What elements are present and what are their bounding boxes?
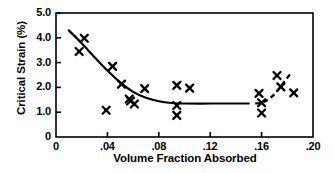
x-axis-tick-label: .16 [247,140,277,152]
y-axis-tick-label: 3.0 [25,56,51,68]
x-axis-tick-label: 0 [41,140,71,152]
y-axis-tick-label: 4.0 [25,31,51,43]
chart-figure: 01.02.03.04.05.0 0.04.08.12.16.20 Volume… [0,0,334,173]
x-axis-tick-label: .04 [92,140,122,152]
x-axis-tick-label: .08 [144,140,174,152]
x-axis-title: Volume Fraction Absorbed [56,152,314,164]
y-axis-title: Critical Strain (%) [15,6,27,130]
y-axis-tick-label: 1.0 [25,105,51,117]
plot-background [56,13,313,137]
x-axis-tick-label: .12 [195,140,225,152]
y-axis-tick-label: 2.0 [25,80,51,92]
x-axis-tick-label: .20 [298,140,328,152]
y-axis-tick-label: 5.0 [25,6,51,18]
